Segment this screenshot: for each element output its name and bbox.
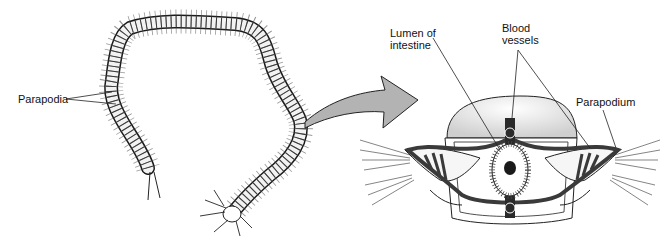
- label-blood-vessels: Blood vessels: [502, 22, 539, 46]
- cross-section-illustration: [360, 96, 660, 224]
- label-parapodium: Parapodium: [576, 96, 635, 108]
- diagram-canvas: Parapodia Lumen of intestine Blood vesse…: [0, 0, 661, 237]
- curved-arrow-icon: [305, 76, 418, 128]
- diagram-artwork: [0, 0, 661, 237]
- label-lumen-of-intestine: Lumen of intestine: [390, 27, 436, 51]
- label-parapodia: Parapodia: [18, 93, 68, 105]
- worm-illustration: [111, 22, 301, 237]
